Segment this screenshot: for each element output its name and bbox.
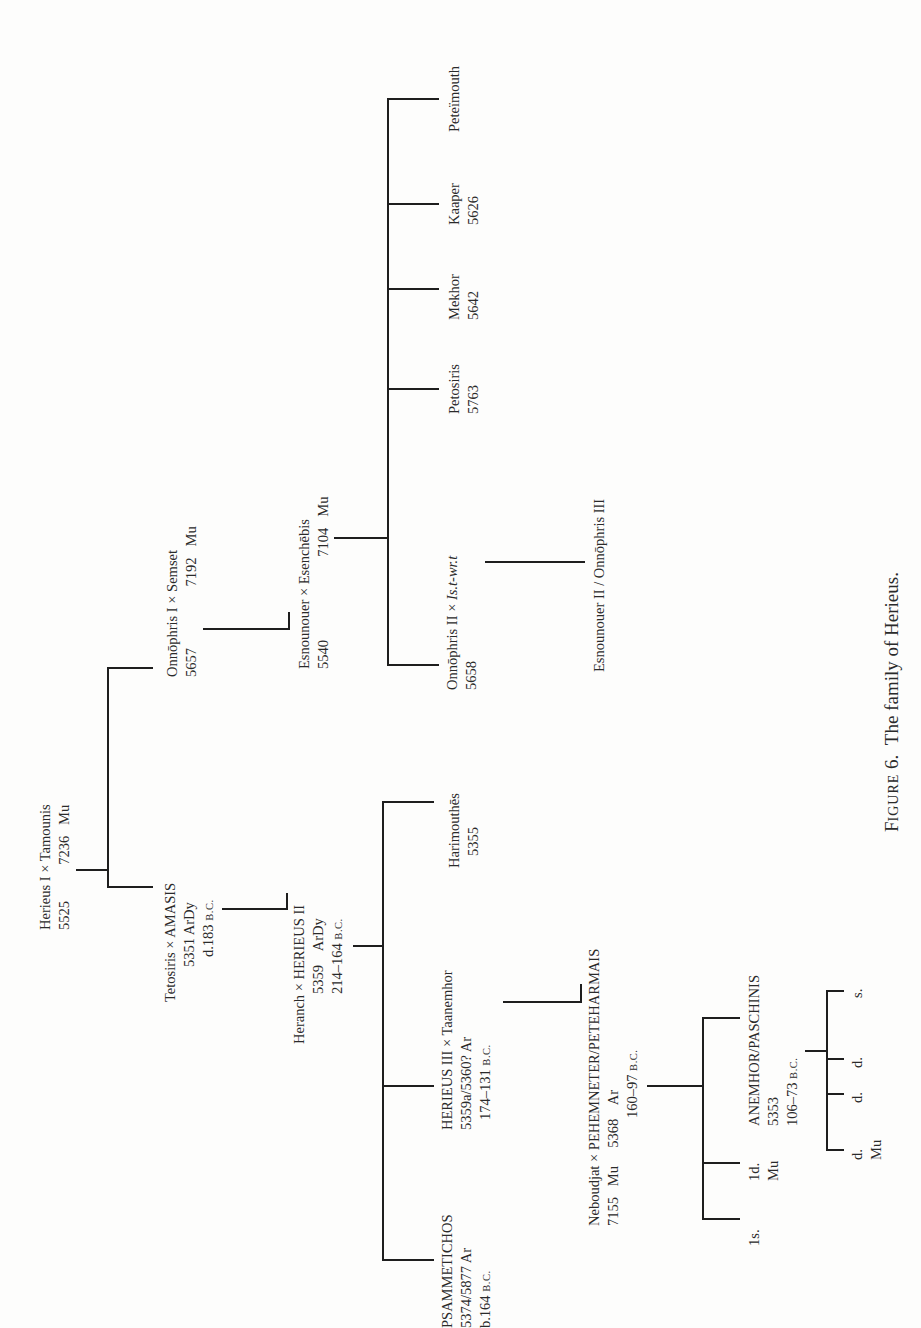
- node-name: 1d.: [745, 1161, 764, 1181]
- node-grandchild-s: s.: [848, 989, 867, 998]
- node-kaaper: Kaaper5626: [445, 183, 483, 225]
- node-name: Mekhor: [445, 274, 464, 320]
- node-name: Esnounouer × Esenchēbis: [295, 497, 314, 669]
- branch-gc-d1: [826, 1149, 844, 1151]
- node-name: PSAMMETICHOS: [438, 1214, 457, 1328]
- node-ids: 7155 Mu 5368 Ar: [604, 949, 623, 1226]
- branch-gc-s: [826, 990, 844, 992]
- node-ids: 5351 ArDy: [180, 883, 199, 1002]
- node-petosiris: Petosiris5763: [445, 364, 483, 414]
- node-name: d.: [848, 1140, 867, 1160]
- family-tree-figure: Herieus I × Tamounis5525 7236 Mu Onnōphr…: [0, 0, 921, 1328]
- node-grandchild-d3: d.: [848, 1057, 867, 1068]
- node-psammetichos: PSAMMETICHOS5374/5877 Arb.164 B.C.: [438, 1214, 496, 1328]
- node-ids: 5525 7236 Mu: [55, 804, 74, 930]
- node-ids: 5359a/5360? Ar: [457, 970, 476, 1130]
- stub-pehemneter: [580, 984, 582, 1003]
- spine-heranch-children: [382, 801, 384, 1261]
- node-peteimouth: Peteïmouth: [445, 66, 464, 132]
- node-herieus-iii-taanemhor: HERIEUS III × Taanemhor5359a/5360? Ar174…: [438, 970, 496, 1130]
- stub-esnounouer: [288, 612, 290, 630]
- node-name: Onnōphris I × Semset: [163, 526, 182, 677]
- node-name: Esnounouer II / Onnōphris III: [590, 499, 609, 672]
- node-grandchild-d1: d.Mu: [848, 1140, 886, 1160]
- node-dates: d.183 B.C.: [199, 883, 219, 1002]
- branch-onnophris1: [107, 667, 153, 669]
- connector-onnophris1: [203, 628, 289, 630]
- node-ids: Mu: [867, 1140, 886, 1160]
- branch-peteimouth: [387, 98, 439, 100]
- connector-herieus3: [503, 1001, 581, 1003]
- node-onnophris-ii: Onnōphris II × Is.t-wr.t5658: [443, 556, 481, 690]
- node-ids: 5657 7192 Mu: [182, 526, 201, 677]
- connector-anemhor: [805, 1050, 827, 1052]
- node-name: d.: [848, 1057, 867, 1068]
- node-onnophris-i-semset: Onnōphris I × Semset5657 7192 Mu: [163, 526, 201, 677]
- node-ids: 5658: [462, 556, 481, 690]
- node-name: HERIEUS III × Taanemhor: [438, 970, 457, 1130]
- node-ids: 5355: [464, 793, 483, 868]
- node-heranch-herieus-ii: Heranch × HERIEUS II5359 ArDy214–164 B.C…: [290, 905, 348, 1044]
- connector-tetosiris: [222, 908, 287, 910]
- node-name: Onnōphris II × Is.t-wr.t: [443, 556, 462, 690]
- node-name: Neboudjat × PEHEMNETER/PETEHARMAIS: [585, 949, 604, 1226]
- figure-label: FIGURE 6.: [881, 755, 902, 832]
- spine-pehemneter-children: [702, 1017, 704, 1219]
- node-son-1: 1s.: [745, 1229, 764, 1246]
- node-anemhor-paschinis: ANEMHOR/PASCHINIS5353106–73 B.C.: [745, 975, 803, 1126]
- spine-esnounouer-children: [387, 98, 389, 665]
- node-dates: b.164 B.C.: [476, 1214, 496, 1328]
- branch-mekhor: [387, 288, 439, 290]
- branch-herieus3: [382, 1085, 434, 1087]
- node-name: 1s.: [745, 1229, 764, 1246]
- node-harimouthes: Harimouthēs5355: [445, 793, 483, 868]
- branch-tetosiris: [107, 886, 153, 888]
- connector-esnounouer: [334, 537, 388, 539]
- node-name: Peteïmouth: [445, 66, 464, 132]
- node-name: Heranch × HERIEUS II: [290, 905, 309, 1044]
- node-name: Harimouthēs: [445, 793, 464, 868]
- node-name: s.: [848, 989, 867, 998]
- node-ids: 5626: [464, 183, 483, 225]
- branch-psammetichos: [382, 1259, 434, 1261]
- figure-title: The family of Herieus.: [881, 572, 902, 745]
- node-name: Kaaper: [445, 183, 464, 225]
- node-dates: 214–164 B.C.: [328, 905, 348, 1044]
- node-mekhor: Mekhor5642: [445, 274, 483, 320]
- node-ids: 5642: [464, 274, 483, 320]
- node-ids: 5353: [764, 975, 783, 1126]
- node-ids: 5359 ArDy: [309, 905, 328, 1044]
- connector-gen1: [76, 869, 108, 871]
- node-neboudjat-pehemneter: Neboudjat × PEHEMNETER/PETEHARMAIS7155 M…: [585, 949, 643, 1226]
- branch-son1: [702, 1218, 740, 1220]
- branch-gc-d2: [826, 1093, 844, 1095]
- node-ids: 5374/5877 Ar: [457, 1214, 476, 1328]
- node-tetosiris-amasis: Tetosiris × AMASIS5351 ArDyd.183 B.C.: [161, 883, 219, 1002]
- node-esnounouer-esenchebis: Esnounouer × Esenchēbis5540 7104 Mu: [295, 497, 333, 669]
- branch-anemhor: [702, 1017, 740, 1019]
- node-ids: Mu: [764, 1161, 783, 1181]
- node-dates: 160–97 B.C.: [623, 949, 643, 1226]
- node-name: ANEMHOR/PASCHINIS: [745, 975, 764, 1126]
- node-daughter-1: 1d.Mu: [745, 1161, 783, 1181]
- node-grandchild-d2: d.: [848, 1092, 867, 1103]
- branch-gc-d3: [826, 1058, 844, 1060]
- node-name: Petosiris: [445, 364, 464, 414]
- spine-gen1-children: [107, 667, 109, 888]
- node-name: d.: [848, 1092, 867, 1103]
- branch-petosiris: [387, 388, 439, 390]
- node-dates: 106–73 B.C.: [783, 975, 803, 1126]
- node-herieus-i-tamounis: Herieus I × Tamounis5525 7236 Mu: [36, 804, 74, 930]
- node-name: Herieus I × Tamounis: [36, 804, 55, 930]
- node-ids: 5540 7104 Mu: [314, 497, 333, 669]
- stub-heranch: [286, 893, 288, 910]
- node-name: Tetosiris × AMASIS: [161, 883, 180, 1002]
- node-ids: 5763: [464, 364, 483, 414]
- connector-onnophris2: [485, 561, 585, 563]
- branch-daughter1: [702, 1162, 740, 1164]
- connector-heranch: [353, 945, 383, 947]
- node-dates: 174–131 B.C.: [476, 970, 496, 1130]
- branch-onnophris2: [387, 664, 439, 666]
- figure-caption: FIGURE 6. The family of Herieus.: [880, 572, 906, 832]
- spine-anemhor-children: [826, 990, 828, 1150]
